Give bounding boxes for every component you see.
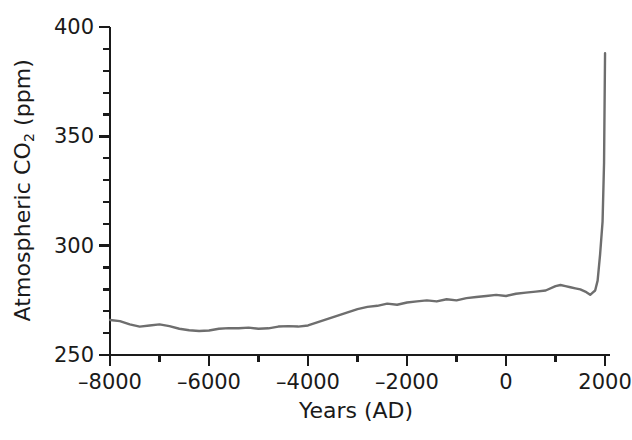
x-axis-label: Years (AD) xyxy=(110,398,602,423)
x-axis-tick-label: 2000 xyxy=(578,370,631,394)
x-axis-tick-label: –2000 xyxy=(375,370,439,394)
y-axis-tick-label: 350 xyxy=(30,124,94,148)
x-axis-tick-label: 0 xyxy=(499,370,512,394)
y-axis-tick-label: 400 xyxy=(30,15,94,39)
y-axis xyxy=(99,27,110,355)
x-axis-tick-label: –6000 xyxy=(177,370,241,394)
data-line-0 xyxy=(110,53,605,331)
x-axis xyxy=(110,355,610,366)
data-series-group xyxy=(110,53,605,331)
x-axis-tick-label: –4000 xyxy=(276,370,340,394)
y-axis-tick-label: 300 xyxy=(30,234,94,258)
y-axis-tick-label: 250 xyxy=(30,343,94,367)
x-axis-tick-label: –8000 xyxy=(78,370,142,394)
